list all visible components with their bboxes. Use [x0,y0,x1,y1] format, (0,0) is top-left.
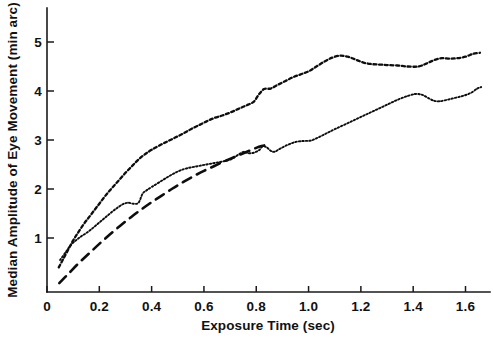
x-tick-label: 1.2 [351,299,370,314]
x-axis-ticks: 00.20.40.60.81.01.21.41.6 [43,286,475,314]
series-line-fitted-curve [59,145,264,283]
chart-series-group [59,53,481,283]
x-tick-label: 0.6 [194,299,214,314]
x-tick-label: 0 [43,299,51,314]
chart-axes [47,8,490,292]
y-tick-label: 5 [34,35,42,50]
series-line-middle-curve [60,87,481,260]
y-tick-label: 1 [34,231,42,246]
line-chart: 00.20.40.60.81.01.21.41.6 12345 Exposure… [0,0,494,340]
chart-figure: 00.20.40.60.81.01.21.41.6 12345 Exposure… [0,0,494,340]
x-axis-title: Exposure Time (sec) [201,318,335,333]
y-tick-label: 4 [34,84,42,99]
y-tick-label: 3 [34,133,42,148]
y-tick-label: 2 [34,182,42,197]
x-tick-label: 1.4 [404,299,424,314]
y-axis-title: Median Amplitude of Eye Movement (min ar… [5,2,20,298]
series-line-upper-curve [59,53,480,268]
x-tick-label: 1.6 [456,299,476,314]
x-tick-label: 0.8 [247,299,267,314]
x-tick-label: 0.2 [90,299,109,314]
x-tick-label: 0.4 [142,299,162,314]
y-axis-ticks: 12345 [34,35,54,246]
x-tick-label: 1.0 [299,299,318,314]
